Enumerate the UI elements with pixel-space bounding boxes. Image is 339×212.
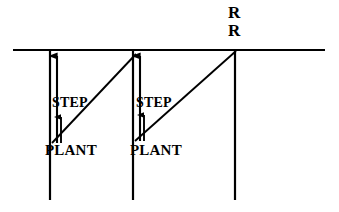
step-label-1: STEP [52, 96, 88, 110]
diagram-canvas: STEP STEP PLANT PLANT R R [0, 0, 339, 212]
plant-label-1: PLANT [45, 143, 97, 158]
plant-label-2: PLANT [130, 143, 182, 158]
step-label-2: STEP [136, 96, 172, 110]
r-label-bottom: R [228, 22, 240, 39]
r-label-top: R [228, 4, 240, 21]
